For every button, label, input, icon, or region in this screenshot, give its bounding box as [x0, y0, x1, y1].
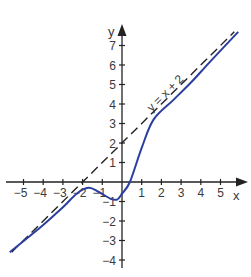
x-axis-label: x — [233, 188, 240, 203]
y-tick-label: 2 — [109, 137, 116, 151]
y-tick-label: 1 — [109, 156, 116, 170]
y-tick-label: −4 — [102, 254, 116, 268]
x-tick-label: 1 — [138, 186, 145, 200]
x-tick-label: −5 — [14, 186, 28, 200]
y-axis-arrow-icon — [118, 24, 127, 36]
x-tick-label: −4 — [33, 186, 47, 200]
function-graph: −5−4−3−2−112345 −4−3−2−11234567 x y y = … — [0, 0, 251, 277]
y-tick-label: 3 — [109, 117, 116, 131]
x-tick-label: −3 — [53, 186, 67, 200]
x-tick-label: 4 — [197, 186, 204, 200]
y-tick-label: −2 — [102, 215, 116, 229]
y-axis-label: y — [108, 24, 115, 39]
y-tick-label: 5 — [109, 78, 116, 92]
y-tick-label: 7 — [109, 39, 116, 53]
x-tick-label: 2 — [158, 186, 165, 200]
x-tick-label: 3 — [178, 186, 185, 200]
y-tick-label: −3 — [102, 234, 116, 248]
x-tick-label: 5 — [217, 186, 224, 200]
y-tick-label: 4 — [109, 98, 116, 112]
x-axis-arrow-icon — [236, 178, 248, 187]
y-tick-label: 6 — [109, 59, 116, 73]
